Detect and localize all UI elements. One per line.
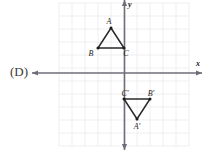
vertex-label: C' [121, 89, 128, 98]
answer-choice-label: (D) [10, 64, 28, 80]
coordinate-plane-plot: x y ABCC'B'A' [0, 0, 210, 153]
figure-container: (D) x y ABCC'B'A' [0, 0, 210, 153]
vertex-label: C [123, 49, 129, 58]
vertex-label: A' [133, 122, 141, 131]
vertex-label: A [106, 17, 112, 26]
triangles-group: ABCC'B'A' [89, 17, 155, 131]
y-axis-arrow-bottom [122, 144, 127, 150]
x-axis-label: x [195, 59, 200, 68]
x-axis-arrow-right [196, 70, 202, 75]
axes [32, 0, 202, 150]
vertex-label: B [89, 49, 94, 58]
vertex-point [110, 27, 113, 30]
x-axis-arrow-left [32, 70, 38, 75]
vertex-point [136, 118, 139, 121]
vertex-label: B' [148, 89, 155, 98]
y-axis-label: y [127, 0, 132, 9]
vertex-point [97, 47, 100, 50]
